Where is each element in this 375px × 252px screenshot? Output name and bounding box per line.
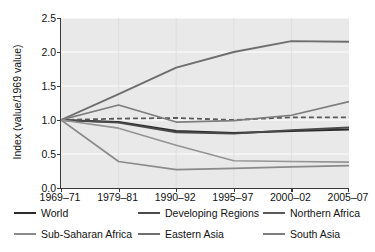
y-axis-title: Index (value/1969 value) [11,17,23,187]
y-tick-label: 2.5 [26,12,56,24]
legend-row-2: Sub-Saharan AfricaEastern AsiaSouth Asia [0,229,375,249]
legend-item-label: Eastern Asia [165,229,224,240]
x-tick-label: 1995–97 [212,191,253,203]
y-tick-label: 1.0 [26,114,56,126]
x-tick-label: 1969–71 [40,191,81,203]
y-tick-mark [57,18,61,19]
legend-line-swatch [263,233,285,235]
legend-item[interactable]: Northern Africa [263,208,360,219]
x-tick-label: 1990–92 [155,191,196,203]
y-tick-label: 1.5 [26,80,56,92]
y-tick-mark [57,154,61,155]
x-tick-label: 1979–81 [97,191,138,203]
legend-item-label: Northern Africa [290,208,360,219]
y-tick-mark [57,120,61,121]
legend-item[interactable]: World [14,208,68,219]
x-tick-label: 2005–07 [328,191,369,203]
x-axis-tick-labels: 1969–711979–811990–921995–972000–022005–… [0,190,375,208]
y-tick-mark [57,52,61,53]
legend-item-label: Sub-Saharan Africa [41,229,132,240]
legend-line-swatch [138,233,160,235]
legend-item-label: Developing Regions [165,208,259,219]
legend-item[interactable]: South Asia [263,229,340,240]
legend-line-swatch [263,212,285,214]
legend-item-label: South Asia [290,229,340,240]
chart-figure: Index (value/1969 value) 0.00.51.01.52.0… [0,0,375,252]
legend-line-swatch [14,212,36,214]
chart-legend: WorldDeveloping RegionsNorthern Africa S… [0,208,375,252]
series-line [61,120,349,162]
y-tick-mark [57,86,61,87]
x-tick-label: 2000–02 [270,191,311,203]
y-tick-label: 2.0 [26,46,56,58]
legend-line-swatch [14,233,36,235]
legend-item[interactable]: Eastern Asia [138,229,224,240]
legend-item-label: World [41,208,68,219]
legend-item[interactable]: Developing Regions [138,208,259,219]
plot-lines [61,18,349,188]
y-tick-label: 0.5 [26,148,56,160]
legend-line-swatch [138,212,160,214]
legend-item[interactable]: Sub-Saharan Africa [14,229,132,240]
legend-row-1: WorldDeveloping RegionsNorthern Africa [0,208,375,228]
plot-area [60,18,349,189]
